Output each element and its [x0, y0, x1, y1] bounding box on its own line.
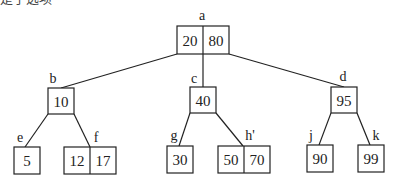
node-g: g 30: [167, 128, 193, 173]
node-key-f-0: 12: [70, 153, 85, 169]
node-key-h-1: 70: [250, 152, 265, 168]
node-f: f 12 17: [64, 130, 116, 174]
node-key-a-1: 80: [209, 33, 224, 49]
node-key-h-0: 50: [224, 152, 239, 168]
node-k: k 99: [358, 128, 384, 172]
node-label-h-prime: h': [245, 128, 255, 143]
node-label-d: d: [340, 69, 347, 84]
node-key-j-0: 90: [313, 151, 328, 167]
edge-b-e: [25, 114, 48, 147]
edge-c-g: [179, 113, 190, 146]
node-label-k: k: [373, 128, 380, 143]
node-j: j 90: [307, 128, 333, 172]
node-label-e: e: [17, 130, 23, 145]
node-e: e 5: [14, 130, 40, 174]
node-label-b: b: [50, 71, 57, 86]
node-d: d 95: [331, 69, 357, 113]
node-h-prime: h' 50 70: [218, 128, 270, 173]
node-label-f: f: [94, 130, 99, 145]
node-key-g-0: 30: [173, 152, 188, 168]
edge-a-d: [229, 54, 344, 87]
node-key-a-0: 20: [183, 33, 198, 49]
node-label-c: c: [191, 71, 197, 86]
node-key-f-1: 17: [96, 153, 112, 169]
node-b: b 10: [48, 71, 74, 114]
node-label-g: g: [171, 128, 178, 143]
node-key-e-0: 5: [23, 153, 31, 169]
node-key-b-0: 10: [54, 94, 69, 110]
node-label-a: a: [199, 8, 206, 23]
node-a: a 20 80: [177, 8, 229, 54]
edge-a-b: [61, 54, 177, 88]
node-key-c-0: 40: [196, 93, 211, 109]
b-tree-diagram: a 20 80 b 10 c 40 d 95 e 5 f 12 17 g: [0, 0, 393, 183]
node-key-d-0: 95: [337, 93, 352, 109]
node-key-k-0: 99: [364, 151, 379, 167]
edge-b-f: [74, 114, 90, 147]
node-label-j: j: [308, 128, 313, 143]
edge-d-j: [319, 113, 331, 145]
edge-d-k: [357, 113, 370, 145]
edge-c-h: [216, 113, 243, 146]
